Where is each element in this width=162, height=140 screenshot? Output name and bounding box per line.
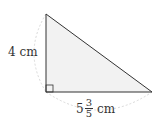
unit-label: cm [97,102,115,116]
triangle-diagram [0,0,162,140]
triangle [46,14,152,92]
vertical-side-label: 4 cm [8,46,38,58]
fraction: 35 [85,98,93,119]
mixed-number-whole: 5 [76,102,84,116]
fraction-denominator: 5 [86,109,92,119]
horizontal-side-label: 535cm [76,98,115,119]
